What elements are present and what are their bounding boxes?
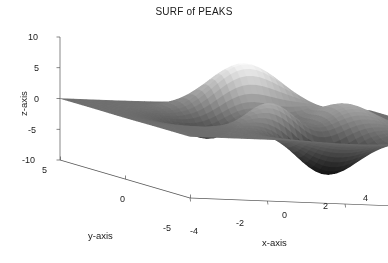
- x-tick-label-minus-2: -2: [236, 219, 244, 228]
- x-tick-label-0: 0: [282, 211, 287, 220]
- surface-plot-canvas: [0, 0, 388, 263]
- z-tick-label-0: 0: [34, 95, 39, 104]
- y-tick-label-minus-5: -5: [163, 224, 171, 233]
- z-tick-label-10: 10: [28, 33, 38, 42]
- z-tick-label-minus-10: -10: [22, 156, 35, 165]
- z-axis-label: z-axis: [19, 91, 29, 116]
- z-tick-label-minus-5: -5: [28, 126, 36, 135]
- z-tick-label-5: 5: [34, 64, 39, 73]
- y-tick-label-5: 5: [42, 166, 47, 175]
- surface-plot-figure: SURF of PEAKS 10 5 0 -5 -10 z-axis 5 0 -…: [0, 0, 388, 263]
- y-tick-label-0: 0: [120, 195, 125, 204]
- x-tick-label-2: 2: [323, 202, 328, 211]
- y-axis-label: y-axis: [88, 231, 113, 241]
- x-tick-label-4: 4: [363, 194, 368, 203]
- x-axis-label: x-axis: [262, 238, 287, 248]
- x-tick-label-minus-4: -4: [190, 227, 198, 236]
- page-title: SURF of PEAKS: [0, 7, 388, 17]
